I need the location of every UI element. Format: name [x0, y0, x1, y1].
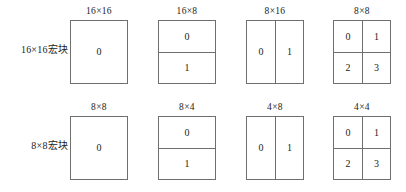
block-caption-16x16: 16×16: [70, 6, 128, 17]
partition-cell: 2: [334, 148, 362, 179]
partition-cell: 1: [159, 148, 215, 179]
partition-block-4x8: 0 1: [246, 116, 304, 180]
partition-cell: 3: [362, 148, 390, 179]
partition-cell: 2: [334, 52, 362, 83]
partition-cell: 0: [247, 117, 275, 179]
block-caption-8x8-row1: 8×8: [333, 6, 391, 17]
partition-cell: 0: [71, 117, 127, 179]
block-caption-4x4: 4×4: [333, 102, 391, 113]
block-caption-4x8: 4×8: [246, 102, 304, 113]
block-caption-16x8: 16×8: [158, 6, 216, 17]
partition-cell: 0: [247, 21, 275, 83]
partition-block-8x4: 0 1: [158, 116, 216, 180]
partition-block-4x4: 0 1 2 3: [333, 116, 391, 180]
partition-cell: 3: [362, 52, 390, 83]
block-caption-8x16: 8×16: [246, 6, 304, 17]
partition-block-8x8-row2: 0: [70, 116, 128, 180]
partition-cell: 1: [275, 21, 303, 83]
partition-block-16x16: 0: [70, 20, 128, 84]
macroblock-partition-figure: 16×16宏块 16×16 0 16×8 0 1 8×16 0 1 8×8 0 …: [0, 0, 406, 192]
partition-block-8x8-row1: 0 1 2 3: [333, 20, 391, 84]
partition-cell: 0: [334, 117, 362, 148]
block-caption-8x8-row2: 8×8: [70, 102, 128, 113]
partition-block-8x16: 0 1: [246, 20, 304, 84]
row-label-16x16-macroblock: 16×16宏块: [4, 44, 68, 56]
partition-cell: 1: [275, 117, 303, 179]
partition-block-16x8: 0 1: [158, 20, 216, 84]
partition-cell: 1: [362, 117, 390, 148]
partition-cell: 0: [159, 117, 215, 148]
partition-cell: 0: [71, 21, 127, 83]
block-caption-8x4: 8×4: [158, 102, 216, 113]
row-label-8x8-macroblock: 8×8宏块: [4, 140, 68, 152]
partition-cell: 0: [334, 21, 362, 52]
partition-cell: 0: [159, 21, 215, 52]
partition-cell: 1: [362, 21, 390, 52]
partition-cell: 1: [159, 52, 215, 83]
